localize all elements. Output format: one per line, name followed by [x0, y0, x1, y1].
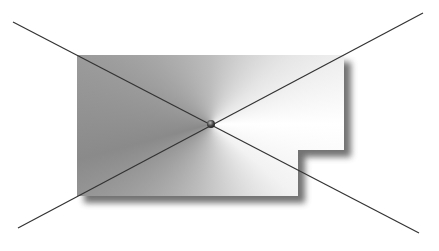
intersection-point	[207, 120, 215, 128]
diagram-canvas	[0, 0, 439, 251]
stepped-shape	[0, 0, 439, 251]
